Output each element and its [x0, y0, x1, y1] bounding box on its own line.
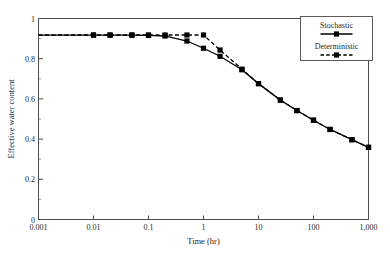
data-point-marker: [217, 54, 222, 59]
x-tick-label: 0.01: [87, 223, 101, 232]
y-tick-label: 0.2: [25, 175, 35, 184]
y-tick-label: 0: [31, 216, 35, 225]
data-point-marker: [366, 145, 371, 150]
data-point-marker: [162, 32, 167, 37]
legend-marker-stochastic: [334, 31, 339, 36]
x-tick-label: 1: [202, 223, 206, 232]
legend-label-stochastic[interactable]: Stochastic: [320, 21, 353, 30]
x-tick-label: 1,000: [360, 223, 378, 232]
data-point-marker: [91, 32, 96, 37]
data-point-marker: [217, 47, 222, 52]
y-tick-label: 0.4: [25, 135, 35, 144]
y-axis-title: Effective water content: [6, 79, 16, 159]
data-point-marker: [349, 137, 354, 142]
data-point-marker: [201, 46, 206, 51]
data-point-marker: [294, 108, 299, 113]
y-tick-label: 0.8: [25, 55, 35, 64]
data-point-marker: [278, 98, 283, 103]
x-tick-label: 100: [308, 223, 320, 232]
data-point-marker: [327, 127, 332, 132]
data-point-marker: [311, 118, 316, 123]
data-point-marker: [129, 32, 134, 37]
chart-canvas: 0.0010.010.11101001,00000.20.40.60.81Tim…: [0, 0, 390, 256]
data-point-marker: [239, 67, 244, 72]
legend-label-deterministic[interactable]: Deterministic: [315, 42, 359, 51]
data-point-marker: [256, 81, 261, 86]
chart-legend[interactable]: StochasticDeterministic: [301, 17, 373, 61]
y-tick-label: 0.6: [25, 95, 35, 104]
chart-figure: 0.0010.010.11101001,00000.20.40.60.81Tim…: [0, 0, 390, 256]
data-point-marker: [184, 32, 189, 37]
y-tick-label: 1: [31, 15, 35, 24]
data-point-marker: [201, 32, 206, 37]
data-point-marker: [107, 32, 112, 37]
data-point-marker: [184, 38, 189, 43]
x-axis-title: Time (hr): [187, 236, 220, 246]
data-point-marker: [146, 32, 151, 37]
x-tick-label: 0.1: [144, 223, 154, 232]
x-tick-label: 10: [255, 223, 263, 232]
legend-marker-deterministic: [334, 52, 339, 57]
